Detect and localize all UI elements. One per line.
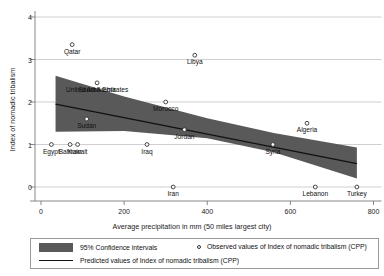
x-axis-title: Average precipitation in mm (50 miles la… (0, 222, 384, 231)
point-label: Kuwait (68, 148, 88, 155)
point-label: Egypt (43, 148, 60, 155)
chart-figure: 0200400600800 01234 QatarLibyaUnited Ara… (0, 0, 384, 276)
point-label: Saudi Arabia (78, 86, 115, 93)
point-label: Algeria (297, 126, 318, 133)
y-tick-label: 1 (28, 141, 32, 148)
y-tick-label: 2 (28, 99, 32, 106)
point-label: Sudan (77, 122, 96, 129)
legend-entry-predicted-line: Predicted values of Index of nomadic tri… (39, 257, 239, 264)
point-label: Libya (187, 58, 203, 65)
y-tick-label: 3 (28, 56, 32, 63)
point-label: Lebanon (302, 190, 328, 197)
predicted-line-swatch (39, 260, 73, 261)
x-tick-label: 600 (285, 208, 297, 215)
x-tick-label: 0 (39, 208, 43, 215)
chart-legend: 95% Confidence intervals Observed values… (30, 238, 379, 269)
point-label: Iran (167, 190, 178, 197)
x-tick-label: 200 (118, 208, 130, 215)
observed-point-marker-icon (197, 245, 201, 249)
legend-label-predicted-values: Predicted values of Index of nomadic tri… (80, 257, 239, 264)
point-label: Syria (265, 148, 280, 155)
point-label: Qatar (64, 48, 81, 55)
predicted-values-line (56, 104, 357, 164)
y-tick-label: 0 (28, 184, 32, 191)
point-label: Jordan (174, 133, 194, 140)
legend-label-observed-values: Observed values of Index of nomadic trib… (207, 243, 367, 250)
x-tick-label: 400 (201, 208, 213, 215)
point-label: Morocco (153, 105, 178, 112)
y-tick-label: 4 (28, 14, 32, 21)
legend-entry-confidence-band: 95% Confidence intervals (39, 243, 157, 252)
point-label: Turkey (347, 190, 367, 197)
legend-label-confidence-band: 95% Confidence intervals (80, 244, 157, 251)
legend-entry-observed-points: Observed values of Index of nomadic trib… (197, 243, 367, 250)
point-label: Iraq (141, 148, 152, 155)
confidence-band-swatch (39, 243, 73, 252)
x-tick-label: 800 (368, 208, 380, 215)
y-axis-title: Index of nomadic tribalism (8, 40, 17, 180)
